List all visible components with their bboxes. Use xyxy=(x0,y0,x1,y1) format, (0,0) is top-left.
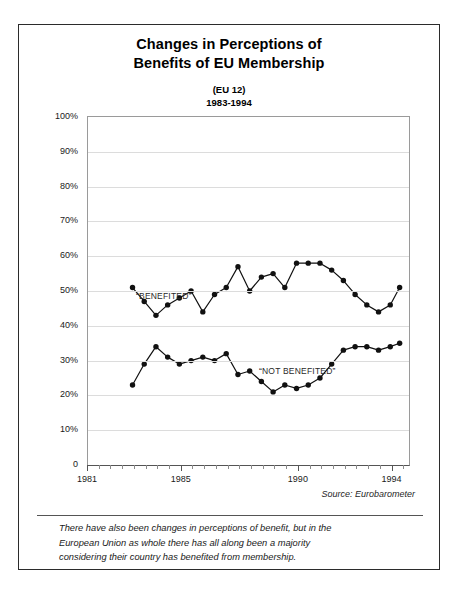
chart-title: Changes in Perceptions of Benefits of EU… xyxy=(19,35,439,73)
data-point xyxy=(224,351,229,356)
x-tick xyxy=(122,465,123,469)
data-point xyxy=(306,382,311,387)
data-point xyxy=(388,344,393,349)
figure-frame: Changes in Perceptions of Benefits of EU… xyxy=(18,24,440,570)
data-point xyxy=(329,267,334,272)
data-point xyxy=(317,260,322,265)
gridline-40 xyxy=(88,326,409,327)
x-tick xyxy=(134,465,135,469)
y-tick-label-90: 90% xyxy=(60,146,78,156)
x-tick xyxy=(380,465,381,469)
x-tick xyxy=(392,465,393,471)
data-point xyxy=(376,347,381,352)
data-point xyxy=(388,302,393,307)
x-tick-label-1994: 1994 xyxy=(382,474,402,484)
data-point xyxy=(352,344,357,349)
data-point xyxy=(376,309,381,314)
data-point xyxy=(177,361,182,366)
x-tick xyxy=(228,465,229,469)
x-tick-label-1985: 1985 xyxy=(171,474,191,484)
x-tick xyxy=(345,465,346,469)
y-tick-label-40: 40% xyxy=(60,320,78,330)
x-tick xyxy=(356,465,357,469)
gridline-20 xyxy=(88,395,409,396)
x-tick-label-1981: 1981 xyxy=(77,474,97,484)
caption-line-1: There have also been changes in percepti… xyxy=(59,521,407,536)
series-label-not-benefited: “NOT BENEFITED” xyxy=(259,366,336,376)
y-tick-label-50: 50% xyxy=(60,285,78,295)
data-point xyxy=(397,285,402,290)
caption-divider xyxy=(37,515,423,516)
data-point xyxy=(259,274,264,279)
x-tick xyxy=(310,465,311,469)
x-tick xyxy=(263,465,264,469)
data-point xyxy=(364,344,369,349)
x-tick xyxy=(239,465,240,469)
x-tick xyxy=(87,465,88,471)
data-point xyxy=(165,354,170,359)
x-tick xyxy=(110,465,111,469)
caption: There have also been changes in percepti… xyxy=(59,521,407,565)
x-tick xyxy=(333,465,334,469)
x-tick xyxy=(204,465,205,469)
caption-line-3: considering their country has benefited … xyxy=(59,550,407,565)
chart-subtitle-line-2: 1983-1994 xyxy=(19,97,439,110)
chart-title-line-1: Changes in Perceptions of xyxy=(19,35,439,54)
data-point xyxy=(341,278,346,283)
x-tick xyxy=(368,465,369,469)
x-tick xyxy=(216,465,217,469)
y-tick-label-20: 20% xyxy=(60,389,78,399)
data-point xyxy=(397,341,402,346)
data-point xyxy=(130,382,135,387)
gridline-10 xyxy=(88,430,409,431)
x-tick xyxy=(298,465,299,471)
x-axis: 1981198519901994 xyxy=(19,474,439,490)
gridline-60 xyxy=(88,256,409,257)
chart-subtitle: (EU 12) 1983-1994 xyxy=(19,84,439,109)
series-label-benefited: “BENEFITED” xyxy=(136,291,192,301)
y-tick-label-0: 0 xyxy=(73,459,78,469)
data-point xyxy=(352,292,357,297)
data-point xyxy=(153,344,158,349)
series-line-0 xyxy=(133,263,400,315)
data-point xyxy=(341,347,346,352)
y-tick-label-80: 80% xyxy=(60,181,78,191)
data-point xyxy=(212,292,217,297)
data-point xyxy=(200,354,205,359)
data-point xyxy=(235,264,240,269)
data-point xyxy=(294,260,299,265)
x-tick xyxy=(169,465,170,469)
x-tick xyxy=(192,465,193,469)
gridline-30 xyxy=(88,361,409,362)
caption-line-2: European Union as whole there has all al… xyxy=(59,536,407,551)
data-point xyxy=(224,285,229,290)
data-point xyxy=(364,302,369,307)
y-tick-label-60: 60% xyxy=(60,250,78,260)
gridline-90 xyxy=(88,152,409,153)
data-point xyxy=(259,379,264,384)
x-tick xyxy=(274,465,275,469)
y-axis: 010%20%30%40%50%60%70%80%90%100% xyxy=(19,116,83,464)
x-tick xyxy=(99,465,100,469)
chart-subtitle-line-1: (EU 12) xyxy=(19,84,439,97)
y-tick-label-10: 10% xyxy=(60,424,78,434)
x-tick xyxy=(251,465,252,469)
data-point xyxy=(235,372,240,377)
data-point xyxy=(270,389,275,394)
data-point xyxy=(282,382,287,387)
x-tick-label-1990: 1990 xyxy=(288,474,308,484)
data-point xyxy=(317,375,322,380)
data-point xyxy=(200,309,205,314)
data-point xyxy=(282,285,287,290)
data-point xyxy=(130,285,135,290)
data-point xyxy=(294,386,299,391)
x-tick xyxy=(286,465,287,469)
x-tick xyxy=(403,465,404,469)
data-point xyxy=(142,361,147,366)
x-tick xyxy=(181,465,182,471)
gridline-70 xyxy=(88,221,409,222)
x-axis-ticks xyxy=(87,465,410,471)
data-point xyxy=(153,313,158,318)
x-tick xyxy=(146,465,147,469)
y-tick-label-30: 30% xyxy=(60,355,78,365)
